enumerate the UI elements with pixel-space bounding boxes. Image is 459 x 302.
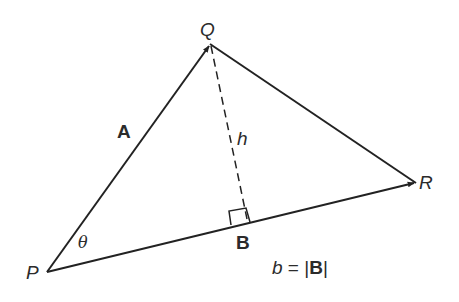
equation-b-magnitude: b = |B| <box>272 258 328 277</box>
label-r: R <box>419 173 433 192</box>
label-q: Q <box>200 20 215 39</box>
equation-bar-close: | <box>323 257 328 278</box>
label-angle-theta: θ <box>78 235 88 251</box>
triangle-diagram <box>0 0 459 302</box>
equation-equals: = <box>283 257 305 278</box>
side-qr <box>210 44 416 183</box>
label-p: P <box>26 263 39 282</box>
label-height: h <box>237 129 248 148</box>
label-vector-b: B <box>236 233 250 252</box>
equation-lhs: b <box>272 257 283 278</box>
equation-vector-b: B <box>309 257 323 278</box>
label-vector-a: A <box>117 122 131 141</box>
